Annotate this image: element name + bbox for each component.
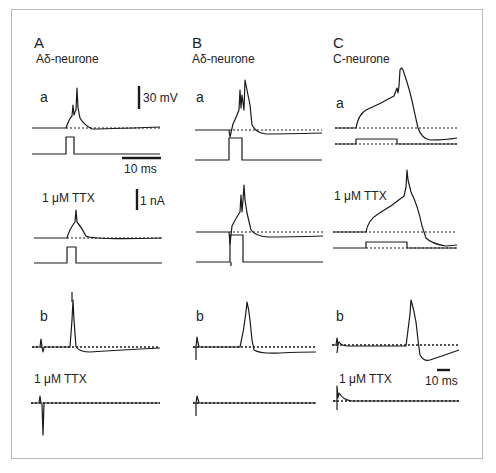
trace-a-ttx-voltage [34, 210, 162, 239]
traces-canvas [0, 0, 496, 473]
trace-b-a-voltage [195, 80, 322, 137]
trace-b-a-current [195, 138, 322, 160]
trace-a-b [32, 300, 160, 352]
trace-b-ttx-current [196, 235, 323, 266]
scale-bars [122, 86, 450, 370]
trace-c-a-voltage [335, 68, 457, 140]
trace-a-a-voltage [32, 88, 160, 129]
trace-a-ttx-current [34, 247, 162, 302]
trace-c-b [332, 300, 459, 360]
trace-c-ttx-b [333, 386, 459, 410]
trace-b-ttx-voltage [196, 185, 323, 244]
trace-c-ttx-voltage [333, 170, 457, 246]
trace-a-ttx-b [31, 396, 160, 435]
trace-b-ttx-b [193, 396, 316, 416]
trace-a-a-current [32, 137, 160, 154]
trace-b-b [193, 302, 316, 360]
